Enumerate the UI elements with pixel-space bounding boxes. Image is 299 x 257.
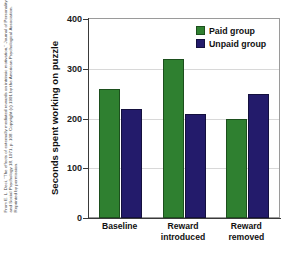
bar-paid-group-reward-removed bbox=[226, 119, 247, 219]
legend-label: Unpaid group bbox=[209, 39, 266, 49]
x-axis-tick-label-line: Reward bbox=[215, 221, 278, 232]
y-axis-tick bbox=[83, 168, 88, 169]
y-axis-tick-label: 400 bbox=[2, 14, 82, 24]
x-axis-tick-label-line: removed bbox=[215, 232, 278, 243]
x-axis-tick-label-line: Reward bbox=[151, 221, 214, 232]
y-axis-tick-label: 0 bbox=[2, 213, 82, 223]
figure-bar-chart: From E. L. Deci, "The effects of externa… bbox=[0, 0, 299, 257]
legend-item-paid-group: Paid group bbox=[196, 25, 266, 36]
legend-swatch-icon bbox=[196, 39, 205, 48]
x-axis-tick-label-line: introduced bbox=[151, 232, 214, 243]
y-axis-tick-label: 300 bbox=[2, 64, 82, 74]
x-axis-tick-label: Baseline bbox=[88, 221, 151, 232]
y-axis-tick bbox=[83, 69, 88, 70]
legend-label: Paid group bbox=[209, 26, 255, 36]
y-axis-tick bbox=[83, 119, 88, 120]
x-axis-tick-label: Rewardremoved bbox=[215, 221, 278, 242]
x-axis-tick-labels: BaselineRewardintroducedRewardremoved bbox=[88, 221, 280, 255]
bar-paid-group-reward-introduced bbox=[163, 59, 184, 218]
legend-swatch-icon bbox=[196, 26, 205, 35]
y-axis-tick bbox=[83, 218, 88, 219]
x-axis-tick-label: Rewardintroduced bbox=[151, 221, 214, 242]
y-axis-tick-label: 100 bbox=[2, 163, 82, 173]
y-axis-tick-label: 200 bbox=[2, 114, 82, 124]
x-axis-tick-label-line: Baseline bbox=[88, 221, 151, 232]
y-axis-tick bbox=[83, 19, 88, 20]
bar-paid-group-baseline bbox=[99, 89, 120, 218]
legend-item-unpaid-group: Unpaid group bbox=[196, 38, 266, 49]
y-axis-tick-labels: 0100200300400 bbox=[0, 0, 82, 257]
legend: Paid groupUnpaid group bbox=[196, 25, 266, 49]
x-axis-line bbox=[88, 218, 281, 219]
bar-unpaid-group-baseline bbox=[121, 109, 142, 218]
bar-unpaid-group-reward-removed bbox=[248, 94, 269, 218]
bar-unpaid-group-reward-introduced bbox=[185, 114, 206, 218]
